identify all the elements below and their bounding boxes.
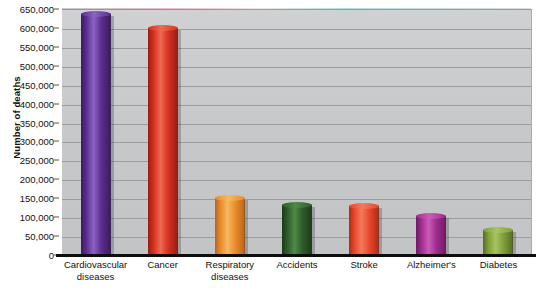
bar (81, 14, 111, 255)
gridline (62, 67, 531, 68)
y-axis-tick-mark (54, 160, 59, 161)
y-axis-tick-mark (54, 65, 59, 66)
y-axis-tick-label: 650,000 (20, 4, 54, 15)
y-axis-tick-mark (54, 179, 59, 180)
bar-chart: Number of deaths 650,000600,000550,00050… (0, 0, 536, 295)
bar-body (349, 206, 379, 255)
y-axis-tick-mark (54, 198, 59, 199)
bar (416, 216, 446, 255)
y-axis-tick-label: 500,000 (20, 60, 54, 71)
y-axis-tick-mark (54, 141, 59, 142)
x-axis-category-label-line: diseases (185, 271, 275, 283)
gridline (62, 142, 531, 143)
gridline (62, 86, 531, 87)
bar-top-cap (148, 25, 178, 31)
gridline (62, 105, 531, 106)
bar-shadow (445, 218, 449, 255)
y-axis-tick-label: 450,000 (20, 79, 54, 90)
bar-body (148, 28, 178, 255)
gridline (62, 199, 531, 200)
bar-shadow (244, 200, 248, 255)
bar (282, 205, 312, 255)
gridline (62, 124, 531, 125)
x-axis-category-labels: CardiovasculardiseasesCancerRespiratoryd… (62, 259, 532, 295)
y-axis-tick-mark (54, 103, 59, 104)
bar (483, 230, 513, 255)
y-axis-tick-label: 50,000 (25, 231, 54, 242)
y-axis-tick-label: 100,000 (20, 212, 54, 223)
bar-body (215, 198, 245, 255)
bar-shadow (512, 232, 516, 255)
bar-top-cap (282, 202, 312, 208)
bar-top-cap (349, 203, 379, 209)
y-axis-tick-label: 550,000 (20, 41, 54, 52)
y-axis-tick-label: 600,000 (20, 22, 54, 33)
bar-body (282, 205, 312, 255)
y-axis-tick-labels: 650,000600,000550,000500,000450,000400,0… (0, 0, 58, 260)
bar-shadow (110, 16, 114, 255)
bar (148, 28, 178, 255)
y-axis-tick-label: 200,000 (20, 174, 54, 185)
bar (349, 206, 379, 255)
y-axis-tick-label: 350,000 (20, 117, 54, 128)
y-axis-tick-mark (54, 122, 59, 123)
gridline (62, 48, 531, 49)
x-axis-category-label-line: Diabetes (453, 259, 536, 271)
bar-shadow (177, 30, 181, 255)
gridline (62, 29, 531, 30)
gridline (62, 180, 531, 181)
plot-area (62, 9, 532, 255)
y-axis-tick-mark (54, 27, 59, 28)
y-axis-tick-label: 400,000 (20, 98, 54, 109)
y-axis-tick-label: 300,000 (20, 136, 54, 147)
bar-body (416, 216, 446, 255)
bar-top-cap (215, 195, 245, 201)
bar (215, 198, 245, 255)
x-axis-line (56, 254, 536, 257)
x-axis-category-label-line: diseases (51, 271, 141, 283)
x-axis-category-label: Diabetes (453, 259, 536, 271)
bar-shadow (378, 208, 382, 255)
plot-top-tint (62, 8, 531, 10)
bar-shadow (311, 207, 315, 255)
y-axis-tick-mark (54, 84, 59, 85)
y-axis-tick-mark (54, 217, 59, 218)
bar-top-cap (81, 11, 111, 17)
y-axis-tick-label: 250,000 (20, 155, 54, 166)
y-axis-tick-label: 150,000 (20, 193, 54, 204)
y-axis-tick-mark (54, 9, 59, 10)
y-axis-tick-mark (54, 46, 59, 47)
gridline (62, 161, 531, 162)
bar-body (483, 230, 513, 255)
y-axis-tick-mark (54, 236, 59, 237)
bar-body (81, 14, 111, 255)
